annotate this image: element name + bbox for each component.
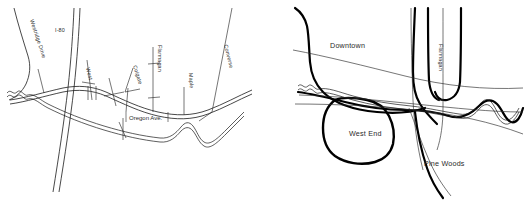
corridor-inner-prong bbox=[428, 8, 439, 100]
label-downtown: Downtown bbox=[330, 41, 365, 50]
river-south-bank-right bbox=[298, 89, 519, 124]
neighborhood-map-canvas: Downtown Flannagan West End Pine Woods bbox=[265, 0, 531, 210]
side-street-2 bbox=[109, 78, 116, 106]
label-west: West bbox=[85, 67, 94, 81]
label-colgate: Colgate bbox=[132, 64, 144, 85]
side-street-1 bbox=[38, 69, 44, 93]
map-figure: Westridge Drive I-80 West Colgate Flanna… bbox=[0, 0, 531, 210]
thin-street-upper bbox=[293, 50, 523, 89]
label-flannagan-right: Flannagan bbox=[438, 44, 444, 71]
westridge-drive-road bbox=[9, 8, 30, 100]
label-flannagan: Flannagan bbox=[157, 45, 163, 72]
neighborhood-map: Downtown Flannagan West End Pine Woods bbox=[265, 0, 531, 210]
label-converse: Converse bbox=[223, 44, 235, 69]
i80-road-east-edge bbox=[59, 8, 80, 192]
street-detail-map-canvas: Westridge Drive I-80 West Colgate Flanna… bbox=[0, 0, 265, 210]
label-oregon-ave: Oregon Ave. bbox=[129, 115, 163, 121]
downtown-boundary bbox=[295, 8, 425, 113]
colgate-street bbox=[125, 68, 133, 92]
label-pine-woods: Pine Woods bbox=[424, 159, 465, 168]
south-bold-road bbox=[415, 112, 443, 198]
label-i80: I-80 bbox=[55, 27, 65, 33]
street-detail-map: Westridge Drive I-80 West Colgate Flanna… bbox=[0, 0, 265, 210]
thin-vertical-flannagan bbox=[437, 8, 443, 150]
flannagan-crossbar-lower bbox=[148, 97, 160, 98]
oregon-ave-south-spur-2 bbox=[119, 122, 126, 138]
colgate-crossbar bbox=[125, 89, 140, 92]
label-maple: Maple bbox=[188, 73, 195, 89]
river-south-bank bbox=[7, 95, 244, 147]
river-north-bank bbox=[7, 91, 244, 143]
west-street-crossbar bbox=[82, 82, 95, 84]
label-west-end: West End bbox=[349, 129, 382, 138]
label-westridge-drive: Westridge Drive bbox=[29, 18, 47, 58]
